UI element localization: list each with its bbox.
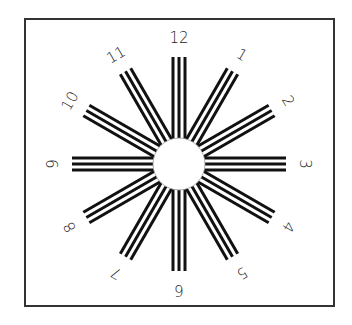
spoke-6 (173, 186, 185, 271)
spoke-line (190, 71, 233, 145)
spoke-line (86, 175, 160, 218)
hour-label-3: 3 (296, 159, 314, 169)
spoke-12 (173, 57, 185, 142)
hour-label-6: 6 (174, 281, 184, 299)
hour-label-7: 7 (107, 263, 124, 283)
spoke-line (86, 111, 160, 154)
center-hub-circle (153, 138, 205, 190)
spoke-line (126, 71, 169, 145)
spoke-line (190, 183, 233, 257)
hour-label-4: 4 (278, 218, 298, 235)
hour-label-1: 1 (233, 45, 250, 65)
spoke-line (198, 175, 272, 218)
clock-dial-diagram: 121234567891011 (0, 0, 352, 325)
hour-label-9: 9 (44, 159, 62, 169)
spoke-line (126, 183, 169, 257)
hour-label-2: 2 (278, 92, 298, 109)
hour-label-12: 12 (169, 29, 188, 47)
spoke-line (198, 111, 272, 154)
spoke-3 (201, 158, 286, 170)
spoke-9 (72, 158, 157, 170)
hour-label-5: 5 (233, 263, 250, 283)
hour-label-11: 11 (103, 42, 129, 67)
hour-label-10: 10 (57, 88, 82, 114)
hour-label-8: 8 (60, 218, 80, 235)
